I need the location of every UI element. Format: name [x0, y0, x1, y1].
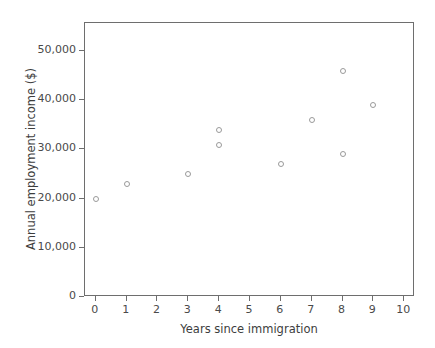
scatter-chart: 012345678910 010,00020,00030,00040,00050…	[0, 0, 435, 348]
y-tick	[79, 50, 84, 51]
x-tick	[372, 296, 373, 301]
x-tick-label: 9	[357, 303, 387, 317]
data-point	[124, 181, 130, 187]
y-axis-title: Annual employment income ($)	[22, 22, 40, 296]
data-point	[340, 68, 346, 74]
x-tick-label: 6	[265, 303, 295, 317]
y-tick	[79, 247, 84, 248]
x-tick	[342, 296, 343, 301]
x-tick	[218, 296, 219, 301]
x-tick	[249, 296, 250, 301]
x-tick	[280, 296, 281, 301]
x-axis-title: Years since immigration	[84, 322, 414, 336]
y-tick	[79, 198, 84, 199]
x-tick-label: 1	[111, 303, 141, 317]
y-tick	[79, 99, 84, 100]
y-tick	[79, 296, 84, 297]
x-tick-label: 3	[172, 303, 202, 317]
x-tick	[311, 296, 312, 301]
x-tick	[126, 296, 127, 301]
x-tick	[403, 296, 404, 301]
x-tick	[187, 296, 188, 301]
x-tick-label: 0	[80, 303, 110, 317]
data-point	[93, 196, 99, 202]
y-tick	[79, 148, 84, 149]
data-point	[370, 102, 376, 108]
x-tick-label: 7	[296, 303, 326, 317]
plot-area	[84, 22, 414, 296]
x-tick-label: 8	[327, 303, 357, 317]
x-tick-label: 2	[141, 303, 171, 317]
data-point	[309, 117, 315, 123]
data-point	[340, 151, 346, 157]
x-tick-label: 10	[388, 303, 418, 317]
x-tick	[156, 296, 157, 301]
x-tick-label: 4	[203, 303, 233, 317]
x-tick-label: 5	[234, 303, 264, 317]
data-point	[278, 161, 284, 167]
data-point	[216, 127, 222, 133]
data-point	[216, 142, 222, 148]
x-tick	[95, 296, 96, 301]
data-point	[185, 171, 191, 177]
